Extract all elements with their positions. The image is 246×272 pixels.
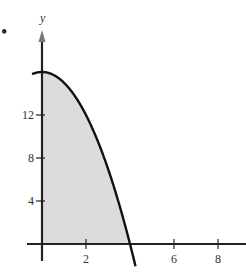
shaded-region xyxy=(42,72,130,244)
x-tick-label: 6 xyxy=(171,252,177,266)
y-axis-label: y xyxy=(39,11,46,25)
y-tick-label: 4 xyxy=(28,194,34,208)
y-tick-label: 8 xyxy=(28,151,34,165)
y-axis-arrow-icon xyxy=(39,30,46,42)
x-tick-label: 8 xyxy=(215,252,221,266)
chart: y 268 4812 xyxy=(0,0,246,272)
x-tick-label: 2 xyxy=(83,252,89,266)
y-tick-label: 12 xyxy=(22,108,34,122)
